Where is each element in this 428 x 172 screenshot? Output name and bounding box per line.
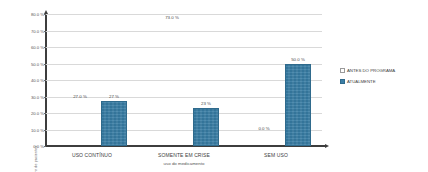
y-axis-tick-label: 0.0 % [33, 144, 44, 149]
bar [193, 108, 219, 146]
legend-item-atualmente[interactable]: ATUALMENTE [340, 79, 395, 84]
y-axis-tick-label: 20.0 % [31, 111, 44, 116]
data-label: 27.0 % [73, 94, 87, 99]
y-axis-tick-mark [44, 113, 47, 114]
bar [101, 101, 127, 146]
bar-chart: numero de pacientes 0.0 %10.0 %20.0 %30.… [0, 0, 428, 172]
y-axis-tick-label: 80.0 % [31, 12, 44, 17]
x-axis-category-label: USO CONTÍNUO [72, 152, 112, 158]
data-label: 23 % [201, 101, 211, 106]
gridline [46, 80, 322, 81]
gridline [46, 113, 322, 114]
y-axis-title: numero de pacientes [34, 112, 38, 172]
y-axis-tick-mark [44, 97, 47, 98]
gridline [46, 14, 322, 15]
data-label: 0.0 % [258, 126, 269, 131]
y-axis-tick-label: 70.0 % [31, 28, 44, 33]
gridline [46, 64, 322, 65]
y-axis-tick-label: 50.0 % [31, 61, 44, 66]
y-axis-tick-mark [44, 64, 47, 65]
y-axis-tick-mark [44, 14, 47, 15]
legend-item-antes[interactable]: ANTES DO PROGRAMA [340, 68, 395, 73]
gridline [46, 146, 322, 147]
chart-legend: ANTES DO PROGRAMA ATUALMENTE [340, 68, 395, 90]
legend-swatch-icon [340, 68, 345, 73]
x-axis-title: uso do medicamento [164, 161, 205, 166]
x-axis-category-label: SOMENTE EM CRISE [158, 152, 210, 158]
bar [285, 64, 311, 147]
y-axis-tick-mark [44, 130, 47, 131]
gridline [46, 31, 322, 32]
data-label: 73.0 % [165, 15, 179, 20]
y-axis-tick-label: 30.0 % [31, 94, 44, 99]
gridline [46, 47, 322, 48]
legend-label-atualmente: ATUALMENTE [347, 79, 376, 84]
y-axis-tick-label: 40.0 % [31, 78, 44, 83]
plot-area: 0.0 %10.0 %20.0 %30.0 %40.0 %50.0 %60.0 … [46, 14, 322, 146]
legend-label-antes: ANTES DO PROGRAMA [347, 68, 395, 73]
data-label: 50.0 % [291, 57, 305, 62]
y-axis-tick-mark [44, 80, 47, 81]
gridline [46, 97, 322, 98]
data-label: 27 % [109, 94, 119, 99]
legend-swatch-icon [340, 79, 345, 84]
y-axis-tick-label: 10.0 % [31, 127, 44, 132]
gridline [46, 130, 322, 131]
x-axis-category-label: SEM USO [264, 152, 288, 158]
y-axis-tick-mark [44, 47, 47, 48]
y-axis-tick-label: 60.0 % [31, 45, 44, 50]
y-axis-tick-mark [44, 146, 47, 147]
y-axis-tick-mark [44, 31, 47, 32]
